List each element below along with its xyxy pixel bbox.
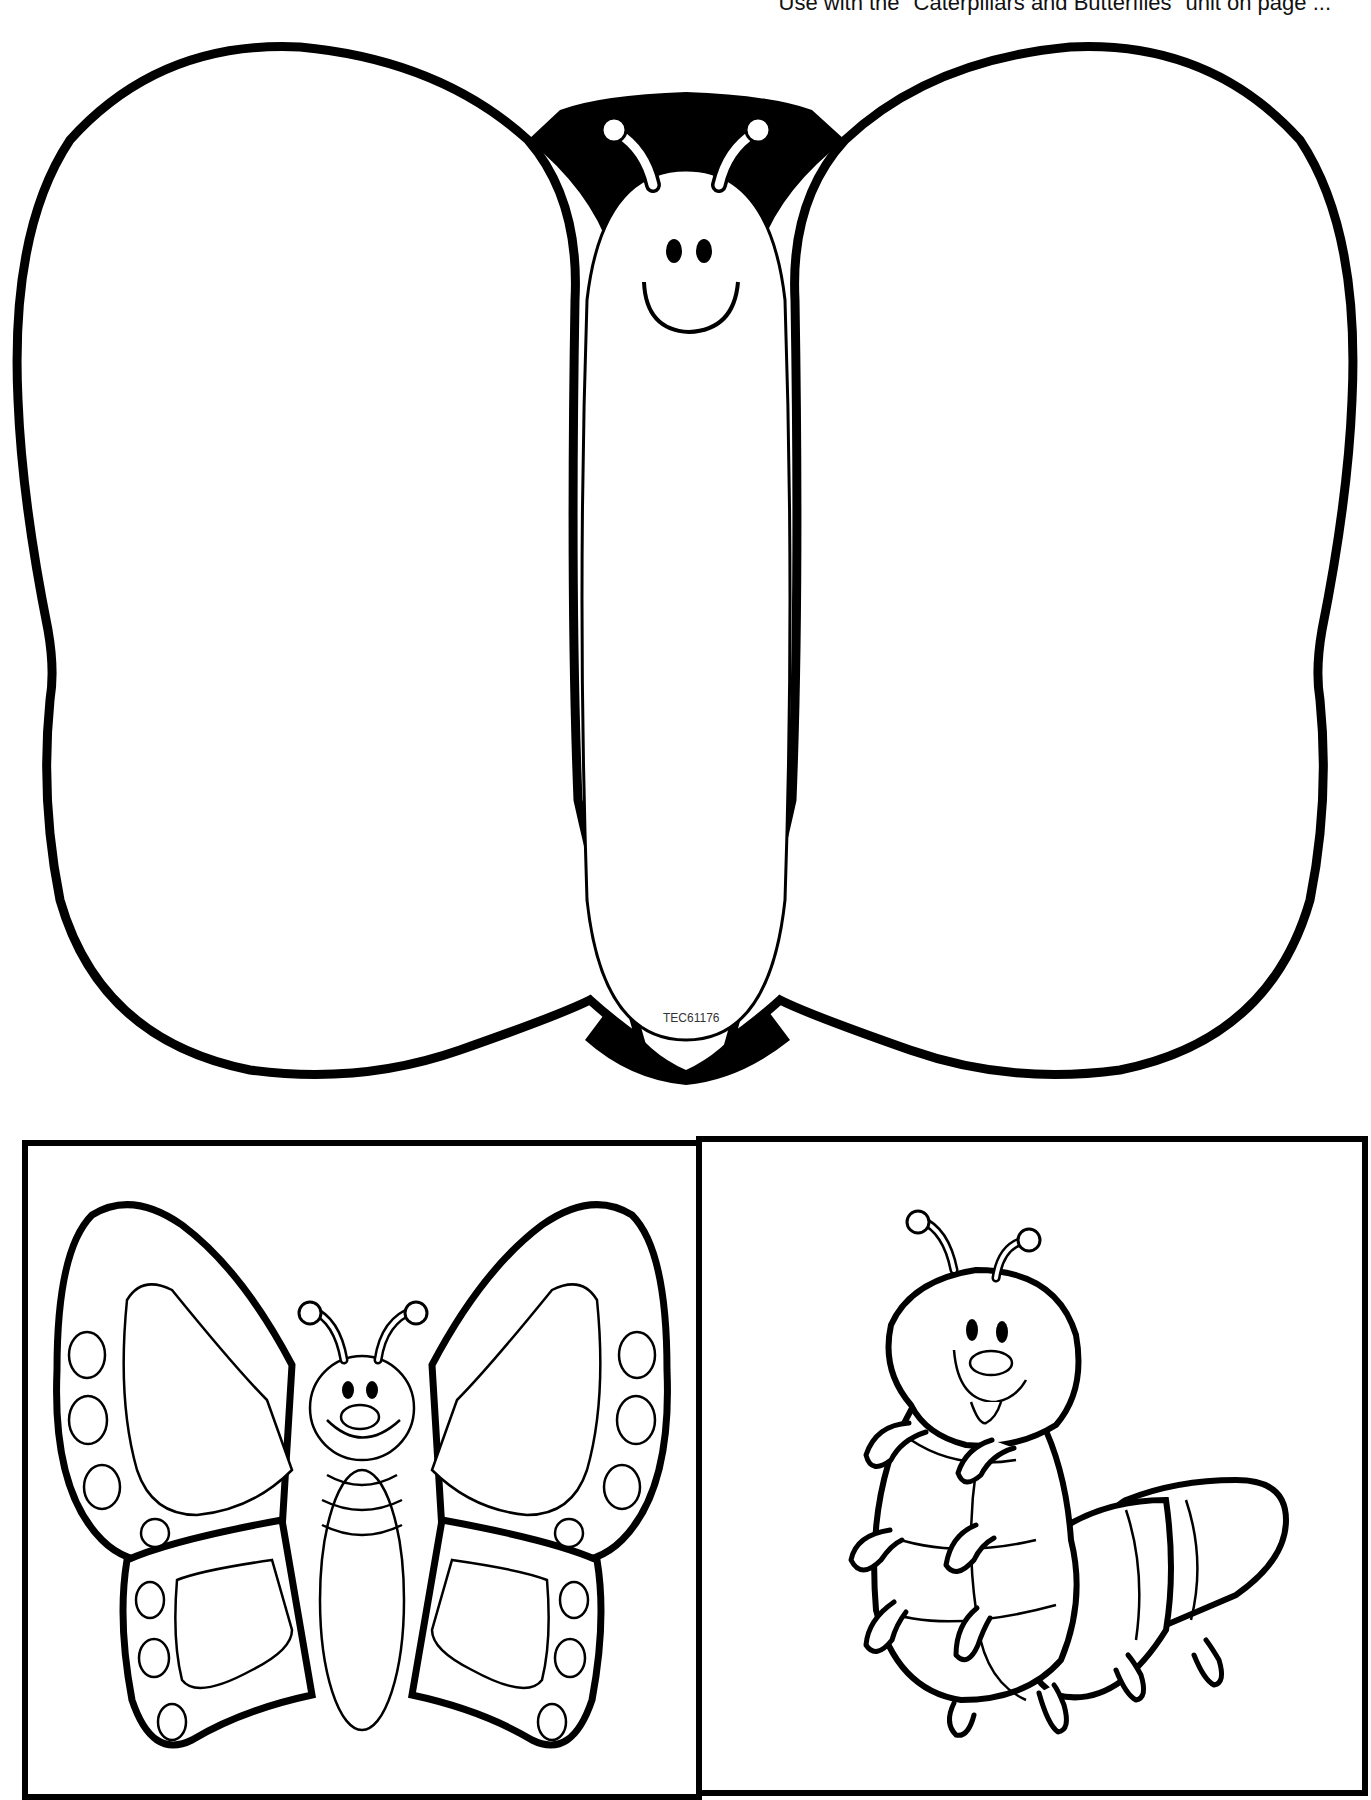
- caterpillar-icon: [696, 1140, 1368, 1780]
- eye-icon: [666, 239, 682, 263]
- butterfly-icon: [22, 1140, 702, 1780]
- large-butterfly-outline: [0, 0, 1371, 1100]
- eye-icon: [696, 239, 712, 263]
- body-oval: [582, 170, 790, 1040]
- product-code: TEC61176: [663, 1011, 719, 1025]
